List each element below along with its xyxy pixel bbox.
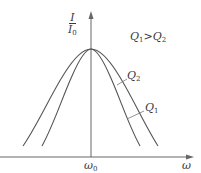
- diagram-canvas: [0, 0, 201, 173]
- condition-right: Q: [153, 30, 162, 43]
- condition-op: >: [144, 30, 153, 43]
- q-condition-label: Q1>Q2: [130, 31, 166, 44]
- q2-label-text: Q: [127, 69, 136, 82]
- omega-text: ω: [182, 159, 191, 172]
- y-axis-arrow-icon: [89, 11, 94, 19]
- curve-q2-label: Q2: [127, 70, 141, 83]
- curve-q1-label: Q1: [145, 102, 159, 115]
- y-axis-label: I I0: [68, 12, 77, 39]
- condition-right-sub: 2: [162, 36, 166, 44]
- resonance-diagram: I I0 Q1>Q2 Q2 Q1 ω0 ω: [0, 0, 201, 173]
- x-axis-label: ω: [182, 160, 191, 171]
- omega0-label: ω0: [84, 160, 97, 173]
- q1-label-text: Q: [145, 101, 154, 114]
- y-label-denominator-sub: 0: [72, 29, 76, 37]
- condition-left: Q: [130, 30, 139, 43]
- q1-label-sub: 1: [154, 107, 158, 115]
- omega0-text: ω: [84, 159, 93, 172]
- omega0-sub: 0: [93, 165, 97, 173]
- q1-leader-line: [127, 111, 144, 119]
- q2-label-sub: 2: [136, 75, 140, 83]
